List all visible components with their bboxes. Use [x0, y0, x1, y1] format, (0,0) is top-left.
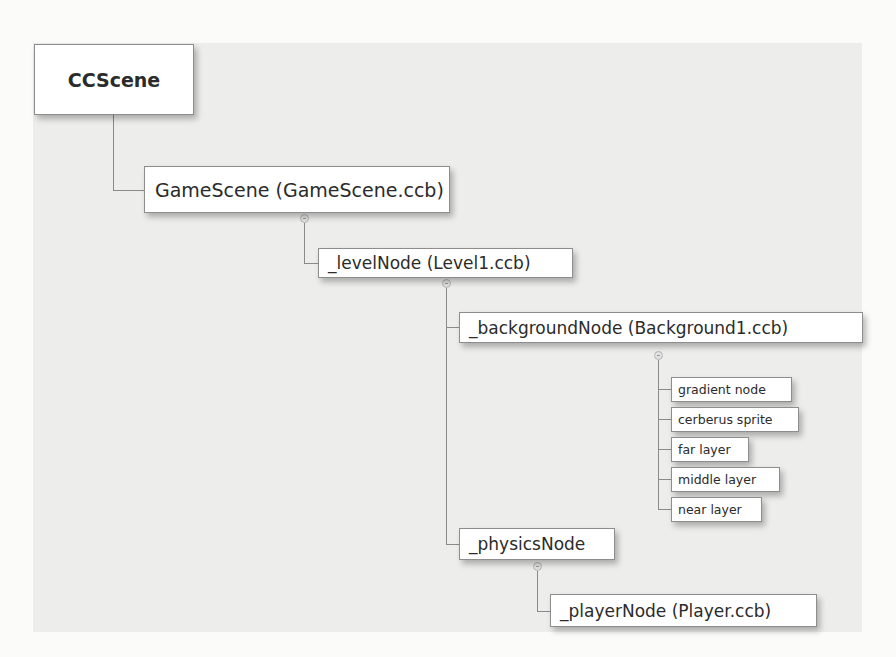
connector-levelnode-to-physicsnode [446, 544, 459, 545]
connector-backgroundnode-child [658, 419, 671, 420]
node-far-layer[interactable]: far layer [671, 437, 749, 462]
node-label: cerberus sprite [678, 412, 773, 427]
connector-backgroundnode-child [658, 509, 671, 510]
connector-backgroundnode-child [658, 479, 671, 480]
node-label: gradient node [678, 382, 766, 397]
node-ccscene[interactable]: CCScene [34, 44, 194, 115]
node-label: middle layer [678, 472, 756, 487]
node-label: _playerNode (Player.ccb) [560, 601, 771, 621]
connector-backgroundnode-child [658, 449, 671, 450]
node-middle-layer[interactable]: middle layer [671, 467, 780, 492]
node-label: _backgroundNode (Background1.ccb) [469, 318, 788, 338]
node-label: GameScene (GameScene.ccb) [155, 179, 444, 201]
node-gradient-node[interactable]: gradient node [671, 377, 792, 402]
node-cerberus-sprite[interactable]: cerberus sprite [671, 407, 799, 432]
connector-root-to-gamescene [113, 190, 144, 191]
node-label: _physicsNode [469, 534, 585, 554]
collapse-toggle-backgroundnode-icon[interactable] [654, 351, 663, 360]
connector-backgroundnode-trunk [658, 360, 659, 510]
node-playernode[interactable]: _playerNode (Player.ccb) [550, 594, 817, 627]
node-gamescene[interactable]: GameScene (GameScene.ccb) [144, 166, 450, 213]
connector-physicsnode-to-playernode [537, 571, 538, 611]
node-label: _levelNode (Level1.ccb) [328, 253, 531, 273]
collapse-toggle-physicsnode-icon[interactable] [533, 562, 542, 571]
connector-gamescene-to-levelnode [304, 263, 318, 264]
node-backgroundnode[interactable]: _backgroundNode (Background1.ccb) [459, 312, 863, 343]
node-label: near layer [678, 502, 742, 517]
collapse-toggle-gamescene-icon[interactable] [300, 214, 309, 223]
connector-physicsnode-to-playernode [537, 611, 550, 612]
collapse-toggle-levelnode-icon[interactable] [442, 279, 451, 288]
node-physicsnode[interactable]: _physicsNode [459, 528, 615, 560]
connector-levelnode-to-backgroundnode [446, 327, 459, 328]
connector-backgroundnode-child [658, 389, 671, 390]
node-label: far layer [678, 442, 731, 457]
connector-root-to-gamescene [113, 114, 114, 190]
connector-gamescene-to-levelnode [304, 223, 305, 263]
node-near-layer[interactable]: near layer [671, 497, 762, 522]
node-label: CCScene [68, 69, 161, 91]
node-levelnode[interactable]: _levelNode (Level1.ccb) [318, 248, 573, 278]
